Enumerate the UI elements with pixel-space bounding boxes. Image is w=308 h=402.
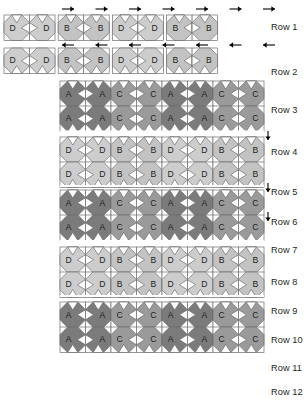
cell-letter: D [43, 23, 49, 33]
quilt-cell: B [213, 247, 239, 273]
cell-letter: B [219, 145, 225, 155]
cell-letter: C [252, 198, 258, 208]
cell-letter: A [66, 198, 72, 208]
quilt-cell: B [111, 272, 137, 298]
quilt-cell: C [213, 81, 239, 107]
quilt-cell: B [137, 247, 163, 273]
quilt-cell: D [162, 162, 188, 188]
row-label-9: Row 9 [271, 306, 298, 316]
cell-letter: A [201, 198, 207, 208]
quilt-cell: C [111, 327, 137, 353]
cell-letter: D [99, 145, 105, 155]
row-label-1: Row 1 [271, 22, 298, 32]
quilt-cell: A [60, 302, 86, 328]
quilt-cell: D [188, 162, 214, 188]
quilt-cell: D [188, 247, 214, 273]
cell-letter: D [168, 145, 174, 155]
cell-letter: B [64, 55, 70, 65]
cell-letter: B [206, 55, 212, 65]
cell-letter: D [168, 169, 174, 179]
quilt-cell: D [162, 137, 188, 163]
cell-letter: C [252, 89, 258, 99]
cell-letter: A [168, 198, 174, 208]
cell-letter: A [201, 89, 207, 99]
press-arrow-left [62, 42, 74, 47]
arrow-head [137, 6, 141, 11]
arrow-head [171, 6, 175, 11]
cell-letter: A [168, 334, 174, 344]
arrow-head [96, 42, 100, 47]
quilt-row-2: DDBBDDBB [4, 48, 218, 74]
cell-letter: B [172, 23, 178, 33]
cell-letter: A [66, 113, 72, 123]
cell-letter: D [168, 279, 174, 289]
cell-letter: B [252, 255, 258, 265]
cell-letter: C [117, 334, 123, 344]
quilt-cell: D [30, 15, 56, 41]
quilt-cell: D [138, 15, 164, 41]
cell-letter: B [150, 279, 156, 289]
quilt-cell: B [111, 162, 137, 188]
cell-letter: A [201, 113, 207, 123]
quilt-cell: B [213, 272, 239, 298]
cell-letter: C [117, 89, 123, 99]
quilt-cell: D [30, 48, 56, 74]
row-label-3: Row 3 [271, 105, 298, 115]
cell-letter: B [219, 255, 225, 265]
cell-letter: B [206, 23, 212, 33]
quilt-cell: B [137, 272, 163, 298]
quilt-cell: C [213, 327, 239, 353]
cell-letter: D [66, 145, 72, 155]
cell-letter: D [201, 169, 207, 179]
press-arrow-right [263, 6, 275, 11]
quilt-cell: B [213, 137, 239, 163]
quilt-row-6: DDBBDDBB [60, 162, 264, 188]
quilt-cell: A [86, 327, 112, 353]
quilt-cell: D [162, 272, 188, 298]
press-arrow-left [230, 42, 242, 47]
cell-letter: C [150, 334, 156, 344]
quilt-row-7: AACCAACC [60, 190, 264, 216]
quilt-cell: D [188, 137, 214, 163]
cell-letter: D [152, 55, 158, 65]
quilt-cell: A [188, 190, 214, 216]
cell-letter: B [150, 255, 156, 265]
arrow-head [238, 6, 242, 11]
cell-letter: B [117, 169, 123, 179]
arrow-head [104, 6, 108, 11]
cell-letter: D [66, 169, 72, 179]
quilt-cell: C [239, 81, 265, 107]
cell-letter: D [10, 55, 16, 65]
quilt-cell: C [239, 106, 265, 132]
cell-letter: A [168, 222, 174, 232]
quilt-cell: D [86, 247, 112, 273]
quilt-cell: C [137, 215, 163, 241]
cell-letter: C [252, 222, 258, 232]
quilt-cell: D [188, 272, 214, 298]
cell-letter: C [150, 310, 156, 320]
cell-letter: B [172, 55, 178, 65]
quilt-cell: B [239, 272, 265, 298]
quilt-cell: D [138, 48, 164, 74]
quilt-cell: C [239, 302, 265, 328]
quilt-cell: A [188, 302, 214, 328]
cell-letter: A [99, 198, 105, 208]
quilt-row-1: DDBBDDBB [4, 15, 218, 41]
row-label-4: Row 4 [271, 147, 298, 157]
quilt-cell: C [239, 327, 265, 353]
press-arrow-right [230, 6, 242, 11]
cell-letter: A [66, 334, 72, 344]
quilt-cell: C [239, 190, 265, 216]
quilt-cell: B [239, 137, 265, 163]
quilt-cell: C [239, 215, 265, 241]
press-arrow-left [196, 42, 208, 47]
quilt-cell: C [111, 302, 137, 328]
quilt-cell: C [137, 106, 163, 132]
quilt-cell: C [111, 106, 137, 132]
quilt-cell: A [86, 106, 112, 132]
cell-letter: A [66, 310, 72, 320]
quilt-cell: A [60, 215, 86, 241]
quilt-row-11: AACCAACC [60, 302, 264, 328]
cell-letter: D [168, 255, 174, 265]
quilt-cell: A [86, 215, 112, 241]
